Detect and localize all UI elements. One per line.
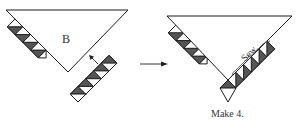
caption: Make 4. bbox=[211, 108, 244, 119]
right-figure: Sew. Make 4. bbox=[167, 16, 292, 119]
quilt-assembly-diagram: B Sew. Make 4. bbox=[0, 0, 296, 122]
arrow-up-left-icon bbox=[89, 55, 98, 64]
dark-triangle bbox=[267, 41, 275, 57]
left-figure: B bbox=[6, 10, 128, 102]
dark-triangle bbox=[101, 55, 117, 63]
arrow-right-icon bbox=[140, 62, 168, 67]
triangle-label: B bbox=[62, 32, 70, 46]
end-triangle bbox=[70, 94, 86, 102]
corner-light bbox=[220, 88, 236, 102]
